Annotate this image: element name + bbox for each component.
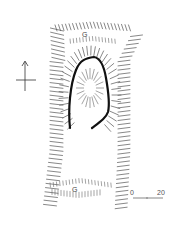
hachure-stroke bbox=[96, 82, 104, 85]
hachure-stroke bbox=[87, 46, 88, 55]
hachure-stroke bbox=[50, 116, 63, 118]
hachure-stroke bbox=[116, 195, 128, 197]
hachure-stroke bbox=[101, 181, 102, 186]
hachure-stroke bbox=[94, 47, 96, 56]
hachure-stroke bbox=[100, 51, 104, 59]
central-mound-hachures bbox=[76, 68, 104, 108]
hachure-stroke bbox=[59, 98, 68, 99]
hachure-stroke bbox=[109, 69, 117, 74]
hachure-stroke bbox=[50, 120, 63, 122]
hachure-stroke bbox=[69, 180, 70, 185]
hachure-stroke bbox=[131, 35, 143, 37]
hachure-stroke bbox=[118, 102, 130, 104]
hachure-stroke bbox=[83, 23, 85, 29]
hachure-stroke bbox=[63, 181, 64, 186]
hachure-stroke bbox=[102, 37, 103, 42]
hachure-stroke bbox=[49, 162, 62, 164]
hachure-stroke bbox=[112, 88, 121, 89]
hachure-stroke bbox=[68, 61, 74, 67]
hachure-stroke bbox=[69, 24, 71, 30]
hachure-stroke bbox=[118, 77, 130, 79]
hachure-stroke bbox=[99, 37, 100, 42]
hachure-stroke bbox=[118, 85, 130, 87]
hachure-stroke bbox=[111, 24, 113, 30]
hachure-stroke bbox=[118, 136, 130, 138]
hachure-stroke bbox=[117, 165, 129, 167]
bottom-marker-label: G bbox=[72, 186, 77, 193]
hachure-stroke bbox=[118, 123, 130, 125]
hachure-stroke bbox=[97, 22, 99, 28]
hachure-stroke bbox=[115, 24, 117, 30]
hachure-stroke bbox=[80, 23, 82, 29]
hachure-stroke bbox=[50, 112, 63, 114]
top-marker-label: G bbox=[82, 31, 87, 38]
hachure-stroke bbox=[92, 180, 93, 185]
hachure-stroke bbox=[117, 169, 129, 171]
hachure-stroke bbox=[87, 22, 89, 28]
hachure-stroke bbox=[104, 182, 105, 187]
hachure-stroke bbox=[116, 190, 128, 192]
hachure-stroke bbox=[92, 97, 94, 107]
hachure-stroke bbox=[117, 178, 129, 180]
hachure-stroke bbox=[76, 23, 78, 29]
hachure-stroke bbox=[94, 22, 96, 28]
hachure-stroke bbox=[118, 157, 130, 159]
hachure-stroke bbox=[128, 39, 140, 41]
hachure-stroke bbox=[50, 62, 63, 64]
outer-bank-hachures-right bbox=[115, 35, 142, 209]
hachure-stroke bbox=[118, 98, 130, 100]
hachure-stroke bbox=[109, 116, 117, 121]
hachure-stroke bbox=[92, 36, 93, 41]
hachure-stroke bbox=[44, 200, 57, 202]
hachure-stroke bbox=[110, 75, 118, 79]
hachure-stroke bbox=[65, 66, 72, 71]
hachure-stroke bbox=[60, 181, 61, 186]
hachure-stroke bbox=[50, 70, 63, 72]
hachure-stroke bbox=[55, 25, 57, 31]
hachure-stroke bbox=[118, 144, 130, 146]
hachure-stroke bbox=[118, 24, 120, 30]
hachure-stroke bbox=[62, 24, 64, 30]
hachure-stroke bbox=[98, 181, 99, 186]
hachure-stroke bbox=[52, 53, 65, 56]
hachure-stroke bbox=[107, 121, 114, 127]
hachure-stroke bbox=[112, 38, 113, 43]
hachure-stroke bbox=[102, 54, 107, 61]
hachure-stroke bbox=[118, 90, 130, 92]
hachure-stroke bbox=[80, 37, 81, 42]
hachure-stroke bbox=[86, 69, 88, 79]
hachure-stroke bbox=[82, 72, 87, 81]
hachure-stroke bbox=[105, 38, 106, 43]
hachure-stroke bbox=[48, 167, 61, 169]
hachure-stroke bbox=[51, 41, 64, 44]
scale-end-label: 20 bbox=[157, 189, 165, 196]
hachure-stroke bbox=[105, 59, 111, 66]
hachure-stroke bbox=[50, 74, 63, 76]
hachure-stroke bbox=[51, 45, 64, 48]
hachure-stroke bbox=[118, 60, 130, 62]
hachure-stroke bbox=[95, 93, 101, 99]
hachure-stroke bbox=[71, 56, 77, 63]
hachure-stroke bbox=[79, 76, 85, 82]
hachure-stroke bbox=[118, 64, 130, 66]
hachure-stroke bbox=[110, 111, 118, 115]
hachure-stroke bbox=[79, 178, 80, 183]
hachure-stroke bbox=[95, 76, 101, 82]
enclosure-outline bbox=[69, 57, 109, 128]
hachure-stroke bbox=[111, 106, 120, 108]
hachure-stroke bbox=[82, 95, 87, 104]
hachure-stroke bbox=[122, 24, 124, 30]
hachure-stroke bbox=[122, 52, 134, 54]
hachure-stroke bbox=[90, 22, 92, 28]
hachure-stroke bbox=[56, 182, 57, 187]
hachure-stroke bbox=[107, 64, 114, 70]
hachure-stroke bbox=[75, 53, 80, 61]
hachure-stroke bbox=[50, 87, 63, 89]
hachure-stroke bbox=[118, 148, 130, 150]
hachure-stroke bbox=[118, 140, 130, 142]
hachure-stroke bbox=[104, 23, 106, 29]
hachure-stroke bbox=[108, 23, 110, 29]
hachure-stroke bbox=[86, 97, 88, 107]
hachure-stroke bbox=[46, 183, 59, 185]
hachure-stroke bbox=[45, 188, 58, 190]
